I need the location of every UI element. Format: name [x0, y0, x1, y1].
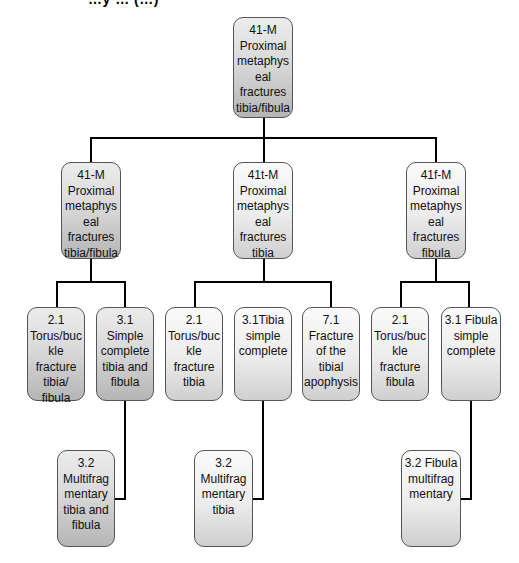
- node-line: tibia and: [97, 360, 153, 376]
- node-line: 3.1: [97, 313, 153, 329]
- node-line: eal: [62, 215, 120, 231]
- node-line: metaphys: [62, 199, 120, 215]
- connector: [435, 258, 437, 283]
- node-41t-M: 41t-M Proximal metaphys eal fractures ti…: [233, 162, 293, 259]
- node-line: tibia and: [58, 503, 114, 519]
- node-line: eal: [407, 215, 465, 231]
- node-2.1-torus-tibia: 2.1 Torus/buc kle fracture tibia: [165, 307, 223, 401]
- node-line: complete: [235, 344, 291, 360]
- node-line: 2.1: [166, 313, 222, 329]
- node-line: simple: [235, 329, 291, 345]
- node-line: fibula: [407, 246, 465, 262]
- node-line: 41-M: [62, 168, 120, 184]
- connector: [124, 400, 126, 500]
- node-line: kle: [28, 344, 84, 360]
- node-line: fractures: [234, 230, 292, 246]
- node-line: tibia: [166, 375, 222, 391]
- connector: [90, 258, 92, 283]
- node-line: fracture: [372, 360, 428, 376]
- node-2.1-torus-tibia-fibula: 2.1 Torus/buc kle fracture tibia/ fibula: [27, 307, 85, 401]
- node-line: fibula: [372, 375, 428, 391]
- node-line: 7.1: [303, 313, 359, 329]
- node-line: tibia: [234, 246, 292, 262]
- cropped-title: …y … (…): [88, 0, 159, 7]
- connector: [194, 281, 332, 283]
- connector: [56, 281, 126, 283]
- node-2.1-torus-fibula: 2.1 Torus/buc kle fracture fibula: [371, 307, 429, 401]
- node-line: Fracture: [303, 329, 359, 345]
- node-7.1-tibial-apophysis: 7.1 Fracture of the tibial apophysis: [302, 307, 360, 401]
- connector: [114, 498, 126, 500]
- connector: [252, 498, 264, 500]
- connector: [263, 117, 265, 139]
- node-41-M: 41-M Proximal metaphys eal fractures tib…: [61, 162, 121, 259]
- connector: [468, 281, 470, 308]
- node-line: simple: [442, 329, 500, 345]
- connector: [470, 400, 472, 500]
- node-line: kle: [372, 344, 428, 360]
- node-line: Proximal: [234, 39, 292, 55]
- node-line: eal: [234, 215, 292, 231]
- node-3.2-multifrag-tibia-fibula: 3.2 Multifrag mentary tibia and fibula: [57, 450, 115, 547]
- node-line: 3.2: [58, 456, 114, 472]
- node-line: Proximal: [407, 184, 465, 200]
- node-line: tibia/fibula: [62, 246, 120, 262]
- node-line: 3.1 Fibula: [442, 313, 500, 329]
- node-line: mentary: [402, 487, 460, 503]
- node-line: Multifrag: [58, 472, 114, 488]
- node-line: complete: [442, 344, 500, 360]
- connector: [400, 281, 402, 308]
- connector: [90, 137, 92, 162]
- node-root-41-M: 41-M Proximal metaphys eal fractures tib…: [233, 17, 293, 118]
- node-line: mentary: [58, 487, 114, 503]
- node-line: 41-M: [234, 23, 292, 39]
- connector: [435, 137, 437, 162]
- node-line: 3.2: [195, 456, 252, 472]
- connector: [460, 498, 472, 500]
- node-line: kle: [166, 344, 222, 360]
- connector: [56, 281, 58, 308]
- node-line: fibula: [58, 518, 114, 534]
- node-line: fibula: [28, 391, 84, 407]
- node-3.1-simple-tibia-fibula: 3.1 Simple complete tibia and fibula: [96, 307, 154, 401]
- node-41f-M: 41f-M Proximal metaphys eal fractures fi…: [406, 162, 466, 259]
- node-line: of the: [303, 344, 359, 360]
- connector: [194, 281, 196, 308]
- node-3.2-multifrag-tibia: 3.2 Multifrag mentary tibia: [194, 450, 253, 547]
- node-line: multifrag: [402, 472, 460, 488]
- connector: [330, 281, 332, 308]
- node-line: 2.1: [372, 313, 428, 329]
- node-line: Torus/buc: [166, 329, 222, 345]
- node-line: fractures: [407, 230, 465, 246]
- connector: [124, 281, 126, 308]
- connector: [263, 137, 265, 162]
- connector: [400, 281, 470, 283]
- node-line: Torus/buc: [28, 329, 84, 345]
- node-line: Multifrag: [195, 472, 252, 488]
- node-line: 3.1Tibia: [235, 313, 291, 329]
- node-line: fracture: [28, 360, 84, 376]
- node-line: metaphys: [407, 199, 465, 215]
- node-line: metaphys: [234, 54, 292, 70]
- node-line: tibial: [303, 360, 359, 376]
- node-line: 41t-M: [234, 168, 292, 184]
- node-line: Proximal: [234, 184, 292, 200]
- node-line: Simple: [97, 329, 153, 345]
- node-line: metaphys: [234, 199, 292, 215]
- node-line: fractures: [234, 85, 292, 101]
- connector: [263, 258, 265, 283]
- node-line: 3.2 Fibula: [402, 456, 460, 472]
- node-line: tibia/: [28, 375, 84, 391]
- node-line: apophysis: [303, 375, 359, 391]
- node-line: Torus/buc: [372, 329, 428, 345]
- node-line: tibia/fibula: [234, 101, 292, 117]
- node-line: 2.1: [28, 313, 84, 329]
- node-line: eal: [234, 70, 292, 86]
- connector: [262, 400, 264, 500]
- node-line: mentary: [195, 487, 252, 503]
- node-line: complete: [97, 344, 153, 360]
- node-line: fractures: [62, 230, 120, 246]
- node-line: fracture: [166, 360, 222, 376]
- node-line: fibula: [97, 375, 153, 391]
- node-line: 41f-M: [407, 168, 465, 184]
